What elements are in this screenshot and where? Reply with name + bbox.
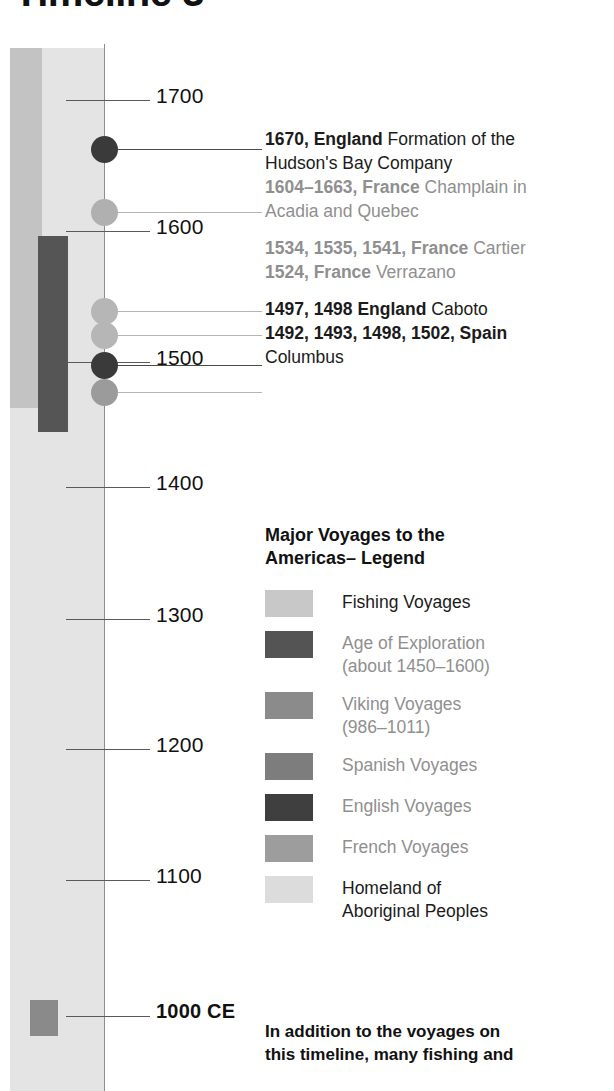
year-label-1300: 1300 [156,603,204,627]
year-label-1600: 1600 [156,215,204,239]
legend-label-line1: Homeland of [342,877,488,900]
year-label-1500: 1500 [156,346,204,370]
marker-1534-france-leader [112,311,262,312]
event-spacer [265,223,610,236]
marker-1604-france [91,199,118,226]
event-description: Columbus [265,347,344,367]
event-date-country: 1670, England [265,129,383,149]
tick-leader-1000-CE [104,1016,150,1017]
event-date-country: 1492, 1493, 1498, 1502, Spain [265,323,507,343]
legend-label-line1: Viking Voyages [342,693,461,716]
tick-mark-1400 [66,487,106,488]
legend-label-line2: Aboriginal Peoples [342,900,488,923]
age-of-exploration-band [38,236,68,432]
tick-leader-1200 [104,749,150,750]
event-line: Acadia and Quebec [265,199,610,223]
marker-1497-england-leader [112,365,262,366]
legend-label: Fishing Voyages [342,590,470,614]
legend-label-line2: (986–1011) [342,716,461,739]
event-spacer [265,284,610,297]
event-list: 1670, England Formation of theHudson's B… [265,127,610,369]
legend-item: Homeland ofAboriginal Peoples [265,876,610,923]
event-description: Hudson's Bay Company [265,153,452,173]
legend-item: Age of Exploration(about 1450–1600) [265,631,610,678]
legend-swatch [265,835,313,862]
legend-label-line1: Fishing Voyages [342,591,470,614]
tick-leader-1300 [104,619,150,620]
legend-swatch [265,753,313,780]
marker-1492-spain [91,379,118,406]
event-description: Cartier [468,238,525,258]
event-line: 1497, 1498 England Caboto [265,297,610,321]
legend-item: Fishing Voyages [265,590,610,617]
event-line: Columbus [265,345,610,369]
tick-mark-1200 [66,749,106,750]
legend-label-line1: French Voyages [342,836,468,859]
year-label-1100: 1100 [156,864,202,888]
tick-mark-1100 [66,880,106,881]
legend-item: Spanish Voyages [265,753,610,780]
legend-swatch [265,692,313,719]
event-date-country: 1534, 1535, 1541, France [265,238,468,258]
legend-label: French Voyages [342,835,468,859]
event-description: Champlain in [420,177,527,197]
marker-1670-england [91,136,118,163]
tick-leader-1400 [104,487,150,488]
year-label-1400: 1400 [156,471,204,495]
tick-mark-1700 [66,100,106,101]
legend-label: Spanish Voyages [342,753,477,777]
tick-mark-1300 [66,619,106,620]
footnote-line1: In addition to the voyages on [265,1020,610,1043]
tick-mark-1000-CE [66,1016,106,1017]
legend-swatch [265,794,313,821]
legend-item: Viking Voyages(986–1011) [265,692,610,739]
event-line: 1534, 1535, 1541, France Cartier [265,236,610,260]
tick-leader-1600 [104,231,150,232]
event-line: 1604–1663, France Champlain in [265,175,610,199]
legend-title: Major Voyages to the Americas– Legend [265,524,610,570]
event-line: 1524, France Verrazano [265,260,610,284]
event-date-country: 1524, France [265,262,371,282]
page-title: Timeline 3 [14,0,204,15]
legend-swatch [265,876,313,903]
legend-label-line1: Spanish Voyages [342,754,477,777]
marker-1524-france [91,322,118,349]
event-date-country: 1604–1663, France [265,177,420,197]
event-description: Verrazano [371,262,456,282]
timeline-infographic: Timeline 3 17001600150014001300120011001… [0,0,614,1091]
legend-title-line2: Americas– Legend [265,547,610,570]
event-line: 1492, 1493, 1498, 1502, Spain [265,321,610,345]
marker-1524-france-leader [112,335,262,336]
event-description: Formation of the [383,129,515,149]
marker-1670-england-leader [112,149,262,150]
legend-title-line1: Major Voyages to the [265,524,610,547]
marker-1534-france [91,298,118,325]
tick-leader-1700 [104,100,150,101]
legend-label: Viking Voyages(986–1011) [342,692,461,739]
viking-voyages-band [30,1000,58,1036]
legend-label: English Voyages [342,794,471,818]
tick-mark-1600 [66,231,106,232]
legend-label-line1: English Voyages [342,795,471,818]
year-label-1200: 1200 [156,733,204,757]
marker-1604-france-leader [112,212,262,213]
tick-leader-1100 [104,880,150,881]
legend-label-line2: (about 1450–1600) [342,655,490,678]
event-description: Acadia and Quebec [265,201,419,221]
legend-swatch [265,631,313,658]
legend-label: Homeland ofAboriginal Peoples [342,876,488,923]
legend-item: French Voyages [265,835,610,862]
event-line: 1670, England Formation of the [265,127,610,151]
marker-1492-spain-leader [112,392,262,393]
footnote: In addition to the voyages on this timel… [265,1020,610,1066]
legend-item: English Voyages [265,794,610,821]
legend-swatch [265,590,313,617]
legend-label: Age of Exploration(about 1450–1600) [342,631,490,678]
event-date-country: 1497, 1498 England [265,299,426,319]
footnote-line2: this timeline, many fishing and [265,1043,610,1066]
year-label-1000-CE: 1000 CE [156,1000,235,1023]
event-line: Hudson's Bay Company [265,151,610,175]
legend: Major Voyages to the Americas– Legend Fi… [265,524,610,937]
legend-label-line1: Age of Exploration [342,632,490,655]
marker-1497-england [91,352,118,379]
